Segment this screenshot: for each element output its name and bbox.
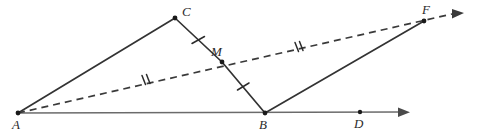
tick-AM-mark-1 xyxy=(142,76,146,85)
dashed-shaft xyxy=(18,14,452,113)
segment-MB xyxy=(222,62,265,113)
point-label-b: B xyxy=(259,118,267,131)
point-label-c: C xyxy=(182,5,191,18)
point-label-a: A xyxy=(12,118,20,131)
segment-BF xyxy=(265,21,424,113)
point-label-f: F xyxy=(422,3,430,16)
geometry-figure: A B C D F M xyxy=(0,0,477,140)
tick-CM xyxy=(192,37,205,44)
vertex-dot-f xyxy=(422,19,427,24)
vertex-dot-d xyxy=(358,110,362,114)
tick-MB xyxy=(238,83,250,90)
vertex-dot-m xyxy=(220,60,225,65)
tick-AM-mark-2 xyxy=(147,75,151,84)
ray-AD-baseline xyxy=(18,108,410,118)
dashed-arrowhead xyxy=(452,9,464,19)
vertex-dot-a xyxy=(16,111,21,116)
point-label-m: M xyxy=(211,45,222,58)
ray-AMF-dashed xyxy=(18,9,464,113)
vertex-dot-b xyxy=(263,111,268,116)
point-label-d: D xyxy=(354,117,363,130)
baseline-shaft xyxy=(18,112,399,113)
segment-AC xyxy=(18,18,175,113)
tick-MF-mark-1 xyxy=(295,43,299,52)
tick-MF xyxy=(295,42,303,52)
geometry-canvas xyxy=(0,0,477,140)
vertex-dot-c xyxy=(173,16,178,21)
baseline-arrowhead xyxy=(398,108,410,118)
